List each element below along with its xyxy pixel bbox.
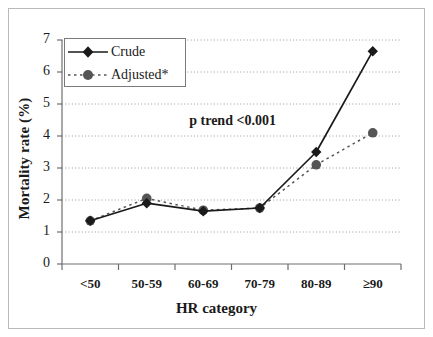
y-tick-label: 1 bbox=[26, 223, 50, 239]
legend-label-adjusted: Adjusted* bbox=[111, 67, 169, 83]
y-tick-label: 4 bbox=[26, 127, 50, 143]
y-tick-label: 3 bbox=[26, 159, 50, 175]
y-tick-label: 6 bbox=[26, 63, 50, 79]
y-tick-label: 2 bbox=[26, 191, 50, 207]
legend-item-crude: Crude bbox=[65, 40, 185, 64]
y-tick-label: 5 bbox=[26, 95, 50, 111]
x-tick-label: ≥90 bbox=[338, 276, 408, 292]
x-axis-title: HR category bbox=[0, 300, 433, 317]
legend-item-adjusted: Adjusted* bbox=[65, 63, 185, 87]
legend-swatch-adjusted bbox=[65, 65, 111, 85]
legend-label-crude: Crude bbox=[111, 44, 145, 60]
data-point-marker bbox=[368, 128, 378, 138]
legend-swatch-crude bbox=[65, 42, 111, 62]
figure-container: Mortality rate (%) HR category p trend <… bbox=[0, 0, 433, 337]
data-point-marker bbox=[368, 46, 378, 56]
y-tick-label: 7 bbox=[26, 31, 50, 47]
chart-legend: Crude Adjusted* bbox=[64, 38, 186, 87]
data-point-marker bbox=[311, 160, 321, 170]
p-trend-annotation: p trend <0.001 bbox=[189, 113, 276, 129]
data-point-marker bbox=[85, 216, 95, 226]
y-tick-label: 0 bbox=[26, 255, 50, 271]
